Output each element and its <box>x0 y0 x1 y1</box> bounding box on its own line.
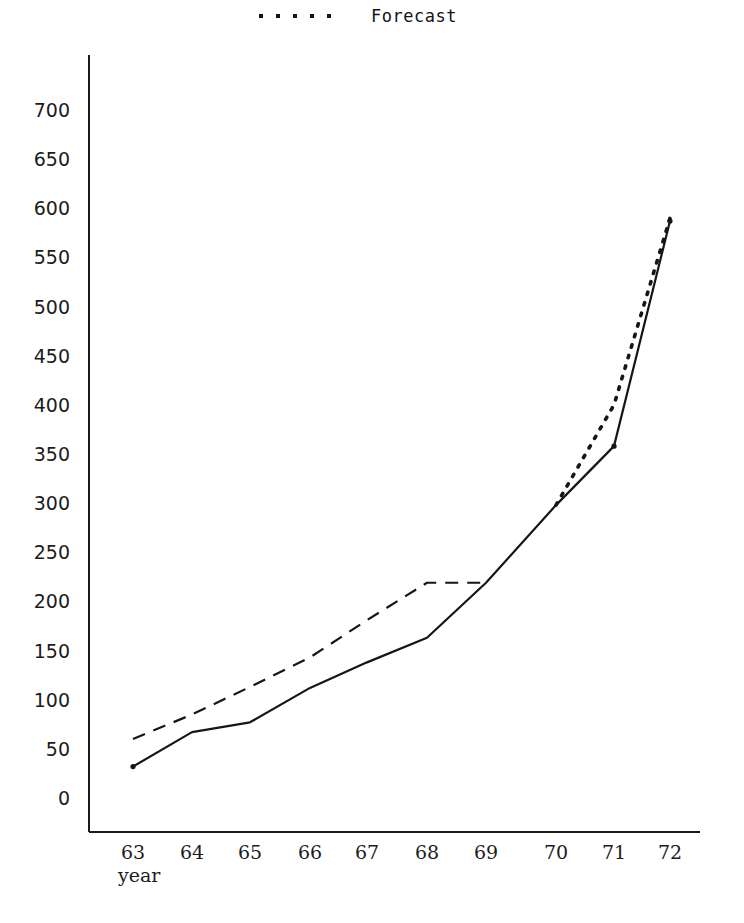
series-line-estimate <box>133 583 486 739</box>
series-line-actual <box>133 221 670 766</box>
series-vertex-marker <box>667 218 672 223</box>
series-line-forecast <box>556 218 670 505</box>
chart-root: Forecast 7006506005505004504003503002502… <box>0 0 744 923</box>
axis-lines <box>89 55 700 832</box>
series-vertex-marker <box>611 444 616 449</box>
series-lines <box>130 218 672 769</box>
series-vertex-marker <box>130 764 135 769</box>
chart-plot-area <box>0 0 744 923</box>
